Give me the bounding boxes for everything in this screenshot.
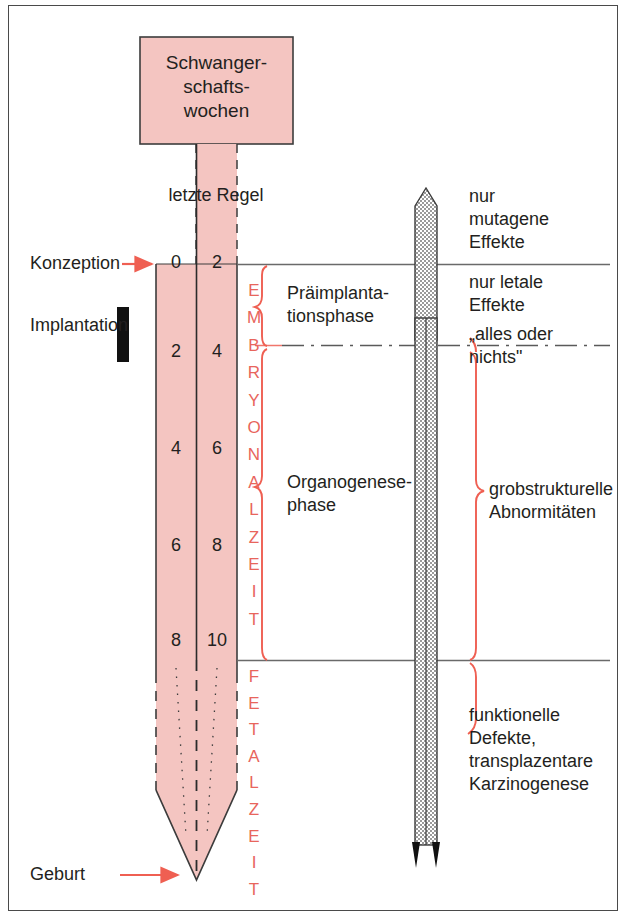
praeimplantationsphase-line-2: tionsphase xyxy=(287,306,374,327)
grobstrukturelle-abnormitaeten-line-2: Abnormitäten xyxy=(489,502,596,523)
vertical-letter: A xyxy=(243,474,265,501)
vertical-letter: E xyxy=(243,695,265,722)
vertical-letter: F xyxy=(243,668,265,695)
header-line-2: schafts- xyxy=(140,76,293,98)
vertical-letter: L xyxy=(243,501,265,528)
gray-bar-mutagen xyxy=(415,188,437,340)
vertical-letter: T xyxy=(243,881,265,908)
nur-mutagene-effekte-line-2: mutagene xyxy=(469,209,549,230)
nur-letale-effekte-line-2: Effekte xyxy=(469,295,525,316)
embryonalzeit-label: EMBRYONALZEIT xyxy=(243,282,265,638)
week-right-3: 8 xyxy=(197,535,237,556)
vertical-letter: I xyxy=(243,854,265,881)
vertical-letter: O xyxy=(243,419,265,446)
week-left-4: 8 xyxy=(156,630,196,651)
nur-letale-effekte-line-1: nur letale xyxy=(469,272,543,293)
vertical-letter: E xyxy=(243,556,265,583)
header-line-1: Schwanger- xyxy=(140,52,293,74)
vertical-letter: I xyxy=(243,583,265,610)
nur-mutagene-effekte-line-3: Effekte xyxy=(469,232,525,253)
alles-oder-nichts-line-1: „alles oder xyxy=(469,324,553,345)
week-right-2: 6 xyxy=(197,438,237,459)
vertical-letter: Z xyxy=(243,801,265,828)
geburt-label: Geburt xyxy=(30,864,85,885)
funktionelle-defekte-line-1: funktionelle xyxy=(469,705,560,726)
vertical-letter: T xyxy=(243,721,265,748)
vertical-letter: T xyxy=(243,611,265,638)
vertical-letter: E xyxy=(243,282,265,309)
vertical-letter: R xyxy=(243,364,265,391)
week-right-0: 2 xyxy=(197,252,237,273)
funktionelle-defekte-line-4: Karzinogenese xyxy=(469,774,589,795)
fetalzeit-label: FETALZEIT xyxy=(243,668,265,907)
brace-grobstrukturell xyxy=(470,352,484,660)
diagram-canvas: Schwanger- schafts- wochen letzte Regel … xyxy=(0,0,626,918)
organogenesephase-line-1: Organogenese- xyxy=(287,472,412,493)
implantation-label: Implantation xyxy=(30,315,128,336)
week-left-1: 2 xyxy=(156,341,196,362)
letzte-regel-label: letzte Regel xyxy=(116,185,316,206)
organogenesephase-line-2: phase xyxy=(287,495,336,516)
vertical-letter: M xyxy=(243,309,265,336)
funktionelle-defekte-line-2: Defekte, xyxy=(469,728,536,749)
week-left-3: 6 xyxy=(156,535,196,556)
vertical-letter: L xyxy=(243,774,265,801)
nur-mutagene-effekte-line-1: nur xyxy=(469,186,495,207)
vertical-letter: N xyxy=(243,446,265,473)
week-right-4: 10 xyxy=(197,630,237,651)
alles-oder-nichts-line-2: nichts" xyxy=(469,347,522,368)
praeimplantationsphase-line-1: Präimplanta- xyxy=(287,283,389,304)
vertical-letter: A xyxy=(243,748,265,775)
gray-bar-organogenese xyxy=(412,318,440,868)
vertical-letter: B xyxy=(243,337,265,364)
week-left-0: 0 xyxy=(156,252,196,273)
vertical-letter: Y xyxy=(243,392,265,419)
vertical-letter: Z xyxy=(243,529,265,556)
konzeption-label: Konzeption xyxy=(30,253,120,274)
funktionelle-defekte-line-3: transplazentare xyxy=(469,751,593,772)
header-line-3: wochen xyxy=(140,100,293,122)
grobstrukturelle-abnormitaeten-line-1: grobstrukturelle xyxy=(489,479,613,500)
vertical-letter: E xyxy=(243,828,265,855)
week-right-1: 4 xyxy=(197,341,237,362)
week-left-2: 4 xyxy=(156,438,196,459)
